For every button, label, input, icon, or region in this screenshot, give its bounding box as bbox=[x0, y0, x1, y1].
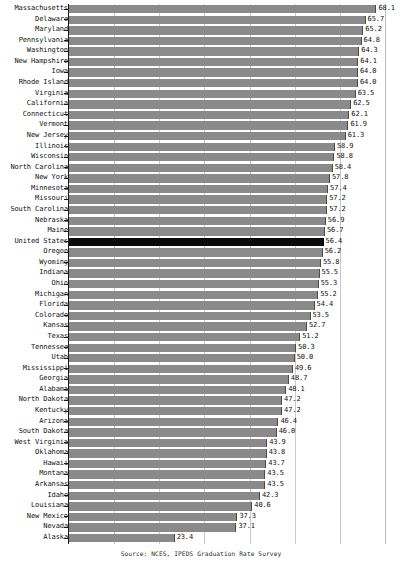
bar-value-label: 52.7 bbox=[309, 320, 325, 330]
bar[interactable] bbox=[69, 58, 358, 66]
axis-tick bbox=[64, 262, 68, 263]
axis-tick bbox=[64, 400, 68, 401]
bar[interactable] bbox=[69, 481, 265, 489]
bar-value-label: 58.4 bbox=[335, 162, 351, 172]
bar[interactable] bbox=[69, 100, 351, 108]
bar-value-label: 56.9 bbox=[328, 215, 344, 225]
bar[interactable] bbox=[69, 492, 260, 500]
bar[interactable] bbox=[69, 322, 307, 330]
axis-tick bbox=[64, 368, 68, 369]
bar-value-label: 64.3 bbox=[361, 45, 377, 55]
bar[interactable] bbox=[69, 418, 278, 426]
bar-highlighted[interactable] bbox=[69, 238, 324, 246]
bar-value-label: 56.2 bbox=[325, 246, 341, 256]
axis-tick bbox=[64, 463, 68, 464]
bar-value-label: 47.2 bbox=[284, 394, 300, 404]
bar[interactable] bbox=[69, 16, 366, 24]
bar[interactable] bbox=[69, 523, 236, 531]
axis-tick bbox=[64, 273, 68, 274]
bar[interactable] bbox=[69, 217, 326, 225]
bar[interactable] bbox=[69, 132, 346, 140]
bar[interactable] bbox=[69, 121, 348, 129]
bar-value-label: 58.9 bbox=[337, 141, 353, 151]
bar[interactable] bbox=[69, 354, 295, 362]
axis-tick bbox=[64, 453, 68, 454]
bar-value-label: 65.2 bbox=[365, 24, 381, 34]
axis-tick bbox=[64, 474, 68, 475]
axis-tick bbox=[64, 421, 68, 422]
category-label: United States bbox=[15, 236, 69, 246]
bar-value-label: 55.3 bbox=[321, 278, 337, 288]
graduation-rate-bar-chart: Massachusetts68.1Delaware65.7Maryland65.… bbox=[0, 0, 402, 563]
bar[interactable] bbox=[69, 365, 293, 373]
category-label: South Dakota bbox=[19, 426, 68, 436]
bar[interactable] bbox=[69, 259, 321, 267]
bar[interactable] bbox=[69, 291, 318, 299]
bar[interactable] bbox=[69, 164, 333, 172]
category-label: Tennessee bbox=[31, 342, 68, 352]
bar[interactable] bbox=[69, 90, 356, 98]
bar-value-label: 40.6 bbox=[254, 500, 270, 510]
bar[interactable] bbox=[69, 206, 327, 214]
bar-value-label: 56.7 bbox=[327, 225, 343, 235]
category-label: North Dakota bbox=[19, 394, 68, 404]
bar[interactable] bbox=[69, 153, 334, 161]
bar[interactable] bbox=[69, 312, 311, 320]
bar[interactable] bbox=[69, 386, 286, 394]
category-label: Minnesota bbox=[31, 183, 68, 193]
category-label: California bbox=[27, 98, 68, 108]
axis-tick bbox=[64, 506, 68, 507]
bar[interactable] bbox=[69, 407, 282, 415]
axis-tick bbox=[64, 294, 68, 295]
bar[interactable] bbox=[69, 396, 282, 404]
bar[interactable] bbox=[69, 449, 267, 457]
bar[interactable] bbox=[69, 47, 359, 55]
bar[interactable] bbox=[69, 301, 315, 309]
axis-tick bbox=[64, 93, 68, 94]
category-label: New Jersey bbox=[27, 130, 68, 140]
bar[interactable] bbox=[69, 227, 325, 235]
bar[interactable] bbox=[69, 174, 330, 182]
bar[interactable] bbox=[69, 185, 328, 193]
bar-value-label: 37.1 bbox=[238, 521, 254, 531]
axis-tick bbox=[64, 83, 68, 84]
bar[interactable] bbox=[69, 37, 362, 45]
category-label: New Mexico bbox=[27, 511, 68, 521]
axis-tick bbox=[64, 136, 68, 137]
bar-value-label: 57.4 bbox=[330, 183, 346, 193]
axis-tick bbox=[64, 220, 68, 221]
bar[interactable] bbox=[69, 79, 358, 87]
bar-value-label: 23.4 bbox=[177, 532, 193, 542]
bar[interactable] bbox=[69, 248, 323, 256]
bar[interactable] bbox=[69, 195, 327, 203]
bar[interactable] bbox=[69, 111, 349, 119]
category-label: Louisiana bbox=[31, 500, 68, 510]
axis-tick bbox=[64, 9, 68, 10]
bar-value-label: 64.0 bbox=[360, 66, 376, 76]
bar-value-label: 43.9 bbox=[269, 437, 285, 447]
bar[interactable] bbox=[69, 534, 175, 542]
bar[interactable] bbox=[69, 344, 296, 352]
bar[interactable] bbox=[69, 269, 320, 277]
bar[interactable] bbox=[69, 513, 237, 521]
axis-tick bbox=[64, 347, 68, 348]
bar[interactable] bbox=[69, 68, 358, 76]
bar[interactable] bbox=[69, 470, 265, 478]
axis-tick bbox=[64, 379, 68, 380]
bar-value-label: 55.5 bbox=[322, 267, 338, 277]
axis-tick bbox=[64, 538, 68, 539]
axis-tick bbox=[64, 337, 68, 338]
axis-tick bbox=[64, 61, 68, 62]
bar[interactable] bbox=[69, 333, 300, 341]
axis-tick bbox=[64, 252, 68, 253]
bar[interactable] bbox=[69, 26, 363, 34]
bar[interactable] bbox=[69, 428, 277, 436]
bar[interactable] bbox=[69, 439, 267, 447]
bar[interactable] bbox=[69, 375, 289, 383]
bar[interactable] bbox=[69, 280, 319, 288]
bar[interactable] bbox=[69, 502, 252, 510]
bar[interactable] bbox=[69, 143, 335, 151]
bar[interactable] bbox=[69, 5, 376, 13]
bar-value-label: 50.3 bbox=[298, 342, 314, 352]
bar[interactable] bbox=[69, 460, 266, 468]
